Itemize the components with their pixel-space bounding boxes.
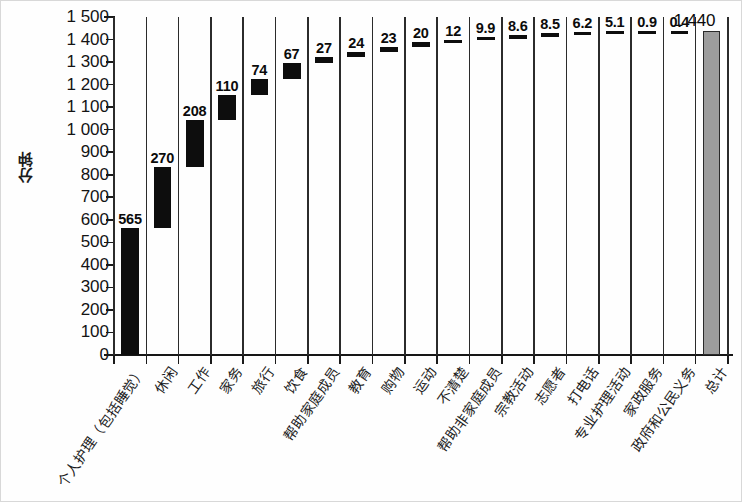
bar-value-label: 8.5 [540,16,560,32]
bar-segment [412,42,430,47]
x-axis-category-label: 宗教活动 [489,362,538,420]
column-separator [663,17,665,355]
x-axis-category-label: 家务 [214,362,247,397]
x-axis-category-label: 旅行 [246,362,279,397]
chart-canvas: 分钟 1 5001 4001 3001 2001 1001 0009008007… [0,0,742,502]
x-axis-tick-mark [113,355,115,364]
y-axis-tick-label: 1 100 [66,97,109,117]
x-axis-category-label: 饮食 [279,362,312,397]
bar-segment [218,95,236,120]
column-separator [372,17,374,355]
x-axis-category-label: 购物 [375,362,408,397]
y-axis-tick-label: 100 [81,322,109,342]
x-axis-tick-mark [727,355,729,364]
column-separator [727,17,729,355]
y-axis-tick-label: 1 400 [66,30,109,50]
column-separator [566,17,568,355]
bar-segment [477,37,495,40]
bar-value-label: 6.2 [573,15,593,31]
bar-value-label: 5.1 [605,14,625,30]
column-separator [339,17,341,355]
column-separator [533,17,535,355]
y-axis-tick-label: 600 [81,210,109,230]
x-axis-tick-mark [533,355,535,364]
bar-segment [671,31,689,34]
y-axis-tick-label: 200 [81,300,109,320]
y-axis-title: 分钟 [15,151,35,183]
x-axis-category-label: 帮助家庭成员 [278,362,344,444]
bar-segment [638,31,656,34]
bar-segment [283,63,301,78]
bar-value-label: 1 440 [674,11,716,31]
bar-value-label: 74 [251,62,267,78]
bar-value-label: 208 [183,103,207,119]
y-axis-tick-label: 1 000 [66,120,109,140]
y-axis-tick-label: 1 200 [66,75,109,95]
bar-value-label: 23 [381,30,397,46]
x-axis-category-label: 帮助非家庭成员 [432,362,506,455]
x-axis-category-label: 政府和公民义务 [626,362,700,455]
x-axis-tick-mark [178,355,180,364]
x-axis-tick-mark [598,355,600,364]
x-axis-category-label: 休闲 [149,362,182,397]
column-separator [275,17,277,355]
column-separator [469,17,471,355]
x-axis-tick-mark [695,355,697,364]
x-axis-tick-mark [501,355,503,364]
y-axis-tick-label: 300 [81,277,109,297]
column-separator [210,17,212,355]
x-axis-tick-mark [404,355,406,364]
x-axis-category-label: 打电话 [561,362,602,409]
y-axis-tick-label: 400 [81,255,109,275]
bar-value-label: 27 [316,40,332,56]
x-axis-category-label: 家政服务 [618,362,667,420]
x-axis-tick-mark [566,355,568,364]
x-axis-category-label: 志愿者 [529,362,570,409]
x-axis-tick-mark [307,355,309,364]
bar-segment [347,52,365,57]
x-axis-category-label: 教育 [343,362,376,397]
bar-segment [186,120,204,167]
y-axis-tick-label: 900 [81,142,109,162]
y-axis-tick-label: 800 [81,165,109,185]
column-separator [695,17,697,355]
bar-value-label: 24 [348,35,364,51]
bar-segment [509,35,527,38]
column-separator [404,17,406,355]
column-separator [630,17,632,355]
x-axis-tick-mark [275,355,277,364]
column-separator [113,17,115,355]
x-axis-tick-mark [436,355,438,364]
bar-segment [606,31,624,34]
x-axis-tick-mark [339,355,341,364]
column-separator [436,17,438,355]
bar-value-label: 67 [284,46,300,62]
column-separator [501,17,503,355]
x-axis-category-label: 工作 [182,362,215,397]
bar-value-label: 9.9 [476,20,496,36]
bar-segment [541,33,559,36]
bar-segment [574,32,592,35]
plot-area: 565270208110746727242320129.98.68.56.25.… [114,17,728,355]
bar-value-label: 8.6 [508,18,528,34]
bar-value-label: 20 [413,25,429,41]
x-axis-tick-mark [663,355,665,364]
x-axis-category-label: 不清楚 [432,362,473,409]
y-axis-tick-labels: 1 5001 4001 3001 2001 1001 0009008007006… [41,1,109,502]
bar-segment [121,228,139,355]
x-axis-tick-mark [242,355,244,364]
x-axis-category-label: 总计 [699,362,732,397]
x-axis-tick-mark [146,355,148,364]
bar-value-label: 565 [118,211,142,227]
column-separator [146,17,148,355]
bar-value-label: 12 [445,23,461,39]
y-axis-tick-label: 1 500 [66,7,109,27]
column-separator [598,17,600,355]
bar-segment [444,40,462,43]
x-axis-tick-mark [372,355,374,364]
column-separator [242,17,244,355]
bar-value-label: 0.9 [637,14,657,30]
bar-segment [154,167,172,228]
x-axis-category-label: 专业护理活动 [569,362,635,444]
y-axis-tick-label: 1 300 [66,52,109,72]
